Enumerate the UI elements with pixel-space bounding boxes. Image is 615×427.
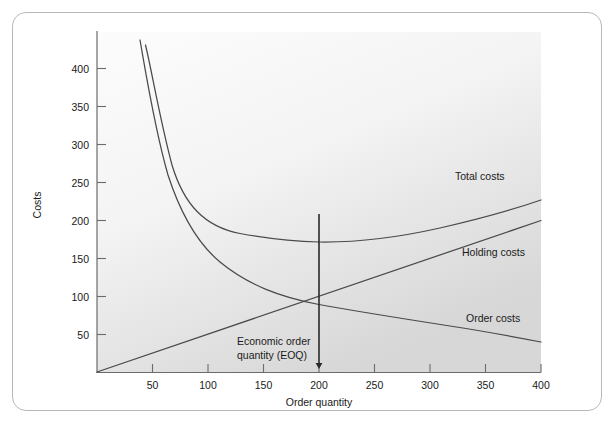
x-tick-label-200: 200 [310,379,328,391]
series-label-order-costs: Order costs [466,312,520,324]
series-label-holding-costs: Holding costs [462,246,525,258]
x-tick-label-400: 400 [532,379,550,391]
y-tick-label-200: 200 [71,215,89,227]
x-tick-label-150: 150 [255,379,273,391]
y-axis: 400 350 300 250 200 150 100 50 Costs [31,31,106,373]
eoq-cost-chart: 400 350 300 250 200 150 100 50 Costs [0,0,615,427]
x-tick-label-100: 100 [199,379,217,391]
eoq-annotation-line-1: Economic order [237,335,311,347]
y-tick-label-100: 100 [71,291,89,303]
x-tick-label-50: 50 [147,379,159,391]
y-tick-label-350: 350 [71,101,89,113]
x-tick-label-300: 300 [421,379,439,391]
y-tick-label-50: 50 [77,329,89,341]
y-tick-label-300: 300 [71,139,89,151]
y-tick-label-400: 400 [71,63,89,75]
y-axis-title: Costs [31,192,43,219]
y-tick-label-250: 250 [71,177,89,189]
series-label-total-costs: Total costs [455,170,505,182]
figure-container: 400 350 300 250 200 150 100 50 Costs [0,0,615,427]
x-tick-label-250: 250 [366,379,384,391]
x-axis-title: Order quantity [286,396,353,408]
eoq-annotation-line-2: quantity (EOQ) [237,349,307,361]
x-tick-label-350: 350 [477,379,495,391]
y-tick-label-150: 150 [71,253,89,265]
